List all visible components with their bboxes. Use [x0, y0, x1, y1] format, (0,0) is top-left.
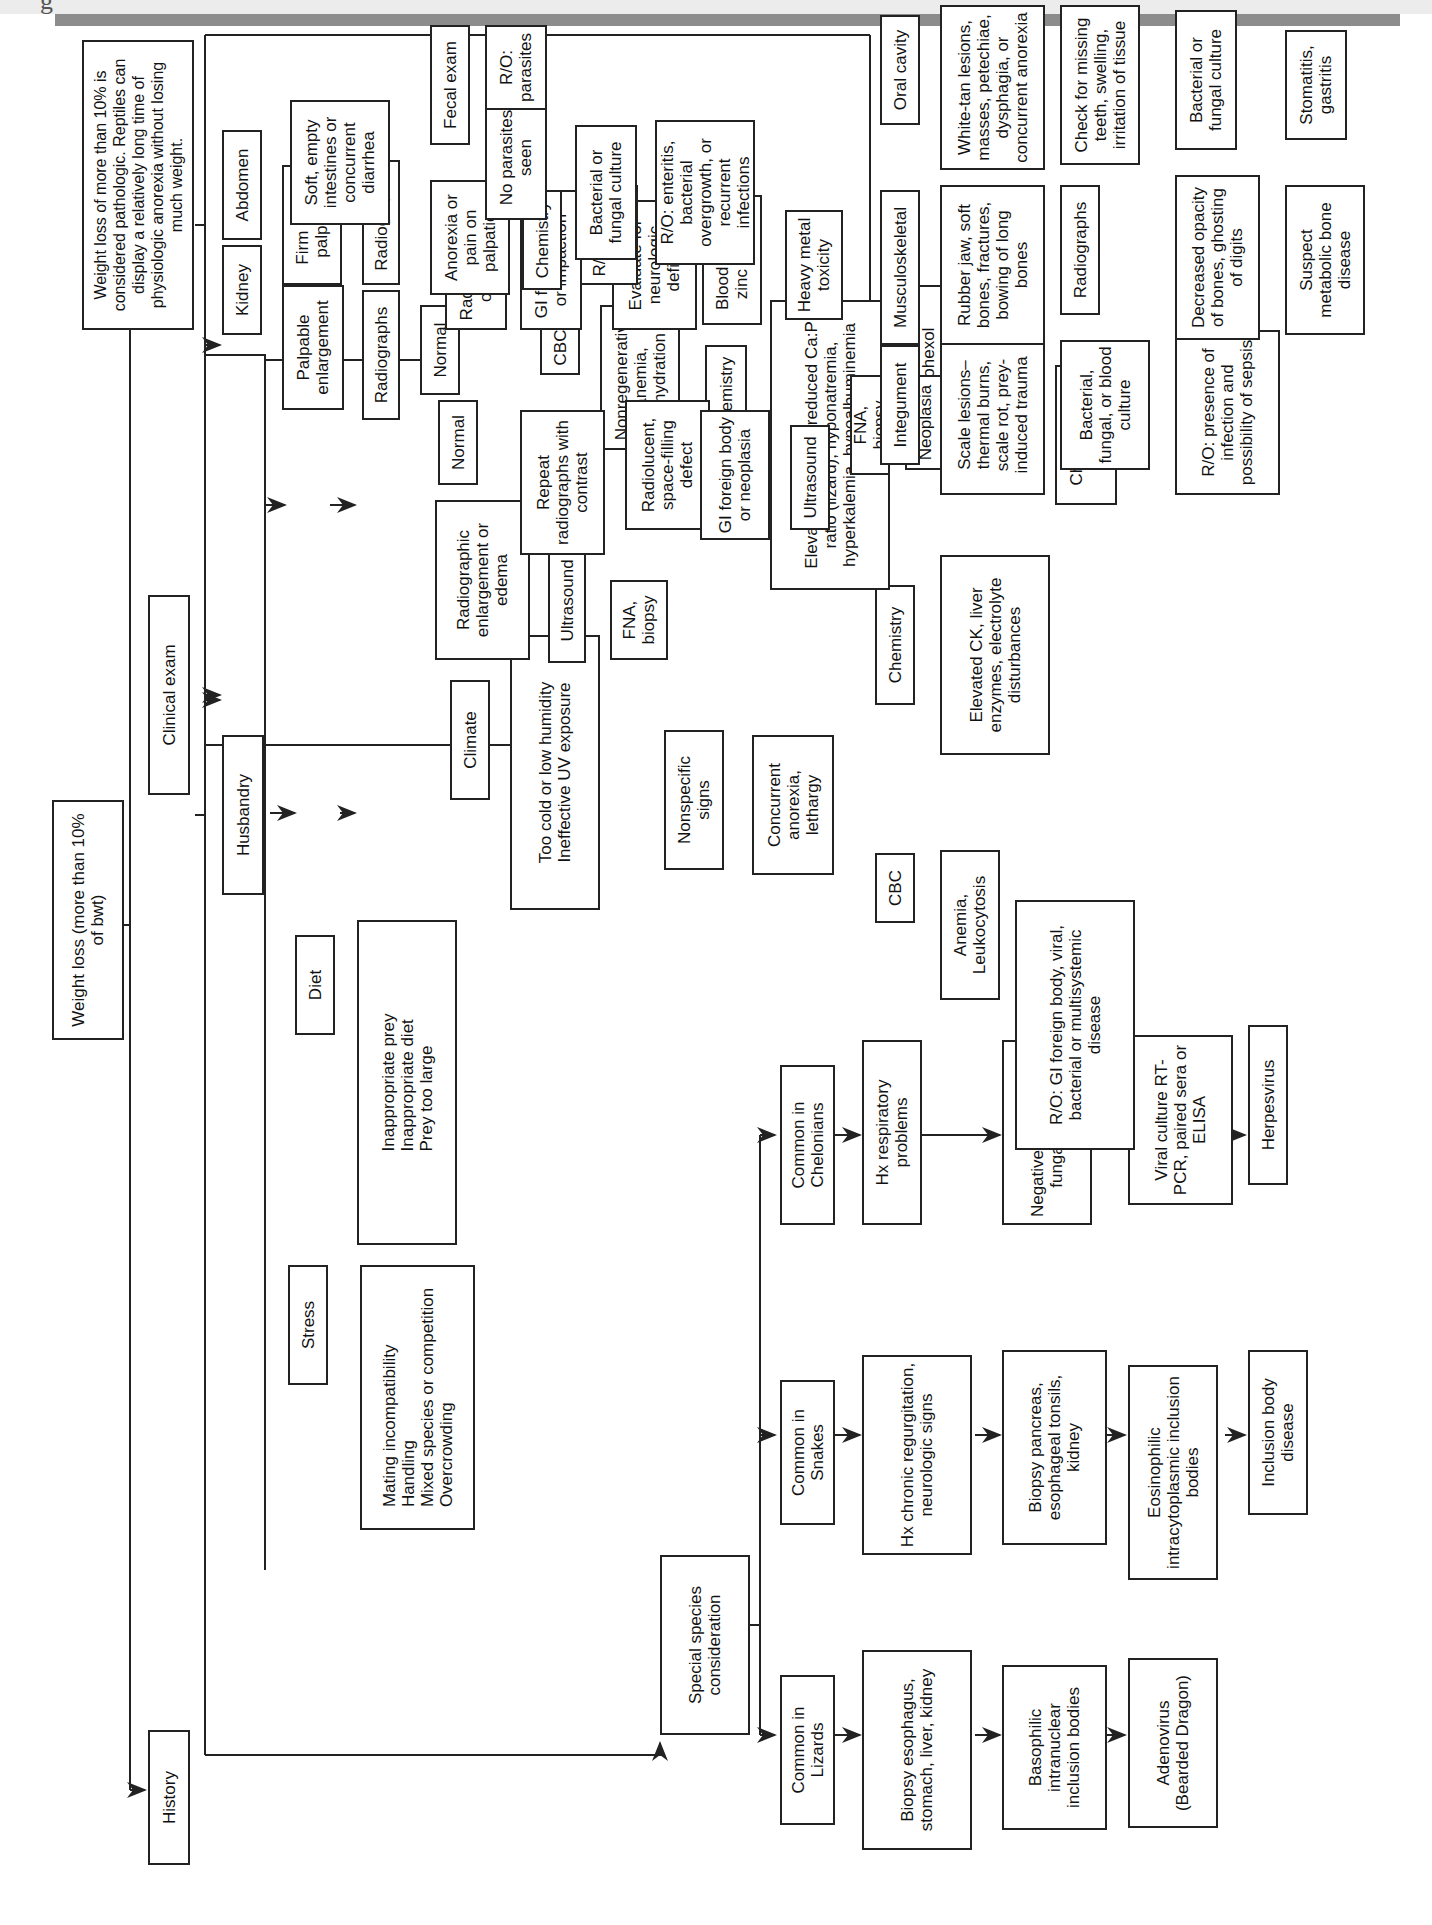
heavy-metal-node: Heavy metal toxicity	[785, 210, 843, 320]
soft-intestines-node: Soft, empty intestines or concurrent dia…	[290, 100, 390, 225]
kidney-ultrasound-node: Ultrasound	[548, 538, 586, 663]
kidney-radiographs-node: Radiographs	[362, 290, 400, 420]
chelonians-result: Herpesvirus	[1248, 1025, 1288, 1185]
special-species-node: Special species consideration	[660, 1555, 750, 1735]
lizards-result: Adenovirus (Bearded Dragon)	[1128, 1658, 1218, 1828]
abdomen-node: Abdomen	[222, 130, 262, 240]
lizards-node: Common in Lizards	[780, 1675, 835, 1825]
integument-step-1: Scale lesions–thermal burns, scale rot, …	[940, 335, 1045, 495]
musculoskeletal-result: Suspect metabolic bone disease	[1285, 185, 1365, 335]
climate-node: Climate	[450, 680, 490, 800]
musculoskeletal-node: Musculoskeletal	[880, 190, 920, 345]
snakes-step-3: Eosinophilic intracytoplasmic inclusion …	[1128, 1365, 1218, 1580]
nonspecific-node: Nonspecific signs	[664, 730, 724, 870]
concurrent-node: Concurrent anorexia, lethargy	[752, 735, 834, 875]
ro-gi-node: R/O: GI foreign body, viral, bacterial o…	[1015, 900, 1135, 1150]
ro-enteritis-node: R/O: enteritis, bacterial overgrowth, or…	[655, 120, 755, 265]
oral-step-3: Bacterial or fungal culture	[1175, 10, 1237, 150]
repeat-radiographs-node: Repeat radiographs with contrast	[520, 410, 605, 555]
snakes-node: Common in Snakes	[780, 1380, 835, 1525]
lizards-step-1: Biopsy esophagus, stomach, liver, kidney	[862, 1650, 972, 1850]
snakes-step-2: Biopsy pancreas, esophageal tonsils, kid…	[1002, 1350, 1107, 1545]
chelonians-step-1: Hx respiratory problems	[862, 1040, 922, 1225]
anemia-node: Anemia, Leukocytosis	[940, 850, 1000, 1000]
palpable-node: Palpable enlargement	[282, 285, 344, 410]
diet-node: Diet	[295, 935, 335, 1035]
climate-items: Too cold or low humidity Ineffective UV …	[510, 635, 600, 910]
flowchart: Weight loss (more than 10% of bwt) Weigh…	[0, 0, 1432, 1925]
oral-step-1: White-tan lesions, masses, petechiae, dy…	[940, 5, 1045, 170]
kidney-node: Kidney	[222, 245, 262, 335]
lizards-step-2: Basophilic intranuclear inclusion bodies	[1002, 1665, 1107, 1830]
musculoskeletal-step-3: Decreased opacity of bones, ghosting of …	[1175, 175, 1260, 340]
note-box: Weight loss of more than 10% is consider…	[82, 40, 194, 330]
bacterial-culture-node: Bacterial or fungal culture	[575, 125, 637, 260]
chelonians-step-3: Viral culture RT-PCR, paired sera or ELI…	[1128, 1035, 1233, 1205]
integument-node: Integument	[880, 345, 920, 465]
integument-step-3: R/O: presence of infection and possibili…	[1175, 330, 1280, 495]
musculoskeletal-step-1: Rubber jaw, soft bones, fractures, bowin…	[940, 185, 1045, 345]
radiographic-enlargement-node: Radiographic enlargement or edema	[435, 500, 530, 660]
musculoskeletal-radiographs: Radiographs	[1060, 185, 1100, 315]
no-parasites-node: No parasites seen	[485, 95, 547, 220]
root-node: Weight loss (more than 10% of bwt)	[52, 800, 124, 1040]
history-node: History	[148, 1730, 190, 1865]
ro-parasites-node: R/O: parasites	[485, 25, 547, 110]
oral-step-2: Check for missing teeth, swelling, irrit…	[1060, 5, 1140, 165]
snakes-result: Inclusion body disease	[1248, 1350, 1308, 1515]
husbandry-node: Husbandry	[222, 735, 264, 895]
abdomen-ultrasound-node: Ultrasound	[790, 425, 830, 530]
stress-node: Stress	[288, 1265, 328, 1385]
gi-neoplasia-node: GI foreign body or neoplasia	[700, 410, 770, 540]
snakes-step-1: Hx chronic regurgitation, neurologic sig…	[862, 1355, 972, 1555]
oral-cavity-node: Oral cavity	[880, 15, 920, 125]
chemistry-node: Chemistry	[875, 585, 915, 705]
kidney-fna-node: FNA, biopsy	[610, 580, 668, 660]
fecal-exam-node: Fecal exam	[430, 25, 470, 145]
chelonians-node: Common in Chelonians	[780, 1065, 835, 1225]
radiolucent-node: Radiolucent, space-filling defect	[625, 400, 710, 530]
stress-items: Mating incompatibility Handling Mixed sp…	[360, 1265, 475, 1530]
cbc-node: CBC	[875, 853, 915, 923]
clinical-exam-node: Clinical exam	[148, 595, 190, 795]
oral-result: Stomatitis, gastritis	[1285, 30, 1347, 140]
abdomen-normal-node: Normal	[438, 400, 478, 485]
elevated-ck-node: Elevated CK, liver enzymes, electrolyte …	[940, 555, 1050, 755]
diet-items: Inappropriate prey Inappropriate diet Pr…	[357, 920, 457, 1245]
integument-step-2: Bacterial, fungal, or blood culture	[1060, 340, 1150, 470]
